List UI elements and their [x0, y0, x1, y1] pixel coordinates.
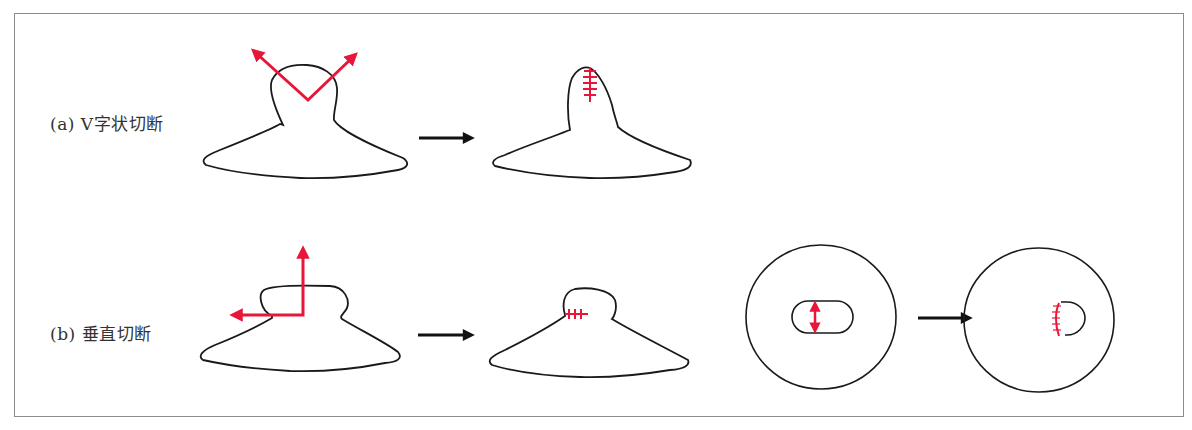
cut-direction-arrow-icon [236, 252, 303, 315]
row-b-before-shape [201, 285, 400, 371]
cut-direction-arrow-icon [256, 53, 353, 100]
top-view-after [964, 248, 1114, 392]
top-view-before [746, 245, 896, 389]
suture-mark-icon [565, 309, 588, 319]
row-a-before-shape [204, 65, 408, 178]
suture-mark-icon [1052, 303, 1061, 336]
row-b-after-shape [490, 288, 689, 377]
